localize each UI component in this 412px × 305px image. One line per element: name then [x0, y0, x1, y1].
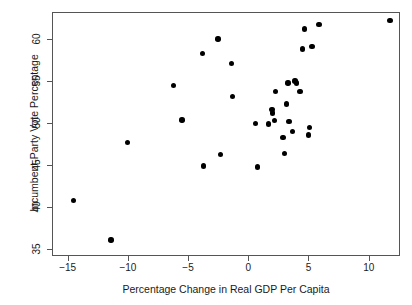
data-point: [201, 163, 206, 168]
x-axis-tick-mark: [308, 256, 309, 261]
x-axis-tick-label: −10: [108, 262, 148, 274]
data-point: [297, 89, 302, 94]
data-point: [284, 101, 289, 106]
y-axis-tick-mark: [47, 249, 52, 250]
data-point: [302, 26, 307, 31]
data-point: [218, 152, 223, 157]
data-point: [282, 151, 287, 156]
data-point: [125, 140, 130, 145]
data-point: [272, 118, 277, 123]
data-point: [179, 117, 184, 122]
x-axis-tick-mark: [68, 256, 69, 261]
data-point: [307, 125, 312, 130]
scatter-plot-figure: −15−10−50510 354045505560 Percentage Cha…: [0, 0, 412, 305]
y-axis-tick-mark: [47, 165, 52, 166]
x-axis-tick-label: −5: [168, 262, 208, 274]
x-axis-tick-mark: [128, 256, 129, 261]
data-point: [253, 121, 258, 126]
x-axis-tick-label: 0: [228, 262, 268, 274]
data-point: [230, 94, 235, 99]
data-point: [285, 80, 290, 85]
data-point: [290, 129, 295, 134]
x-axis-tick-mark: [369, 256, 370, 261]
data-point: [215, 36, 220, 41]
data-point: [171, 83, 176, 88]
data-point: [71, 198, 76, 203]
data-point: [229, 61, 234, 66]
data-points-layer: [53, 13, 399, 255]
data-point: [273, 89, 278, 94]
data-point: [280, 135, 285, 140]
data-point: [387, 18, 392, 23]
data-point: [255, 164, 260, 169]
data-point: [306, 132, 311, 137]
x-axis-tick-label: 5: [288, 262, 328, 274]
x-axis-tick-mark: [188, 256, 189, 261]
data-point: [316, 22, 321, 27]
y-axis-tick-mark: [47, 123, 52, 124]
x-axis-tick-label: −15: [48, 262, 88, 274]
data-point: [270, 110, 275, 115]
y-axis-tick-mark: [47, 207, 52, 208]
y-axis-tick-mark: [47, 39, 52, 40]
data-point: [200, 51, 205, 56]
data-point: [266, 121, 271, 126]
data-point: [286, 119, 291, 124]
data-point: [309, 44, 314, 49]
y-axis-title: Incumbent-Party Vote Percentage: [28, 11, 40, 255]
x-axis-title: Percentage Change in Real GDP Per Capita: [52, 283, 400, 295]
x-axis-tick-label: 10: [349, 262, 389, 274]
plot-area: [52, 12, 400, 256]
data-point: [300, 46, 305, 51]
x-axis-tick-mark: [248, 256, 249, 261]
y-axis-tick-mark: [47, 81, 52, 82]
data-point: [108, 237, 113, 242]
data-point: [294, 80, 299, 85]
